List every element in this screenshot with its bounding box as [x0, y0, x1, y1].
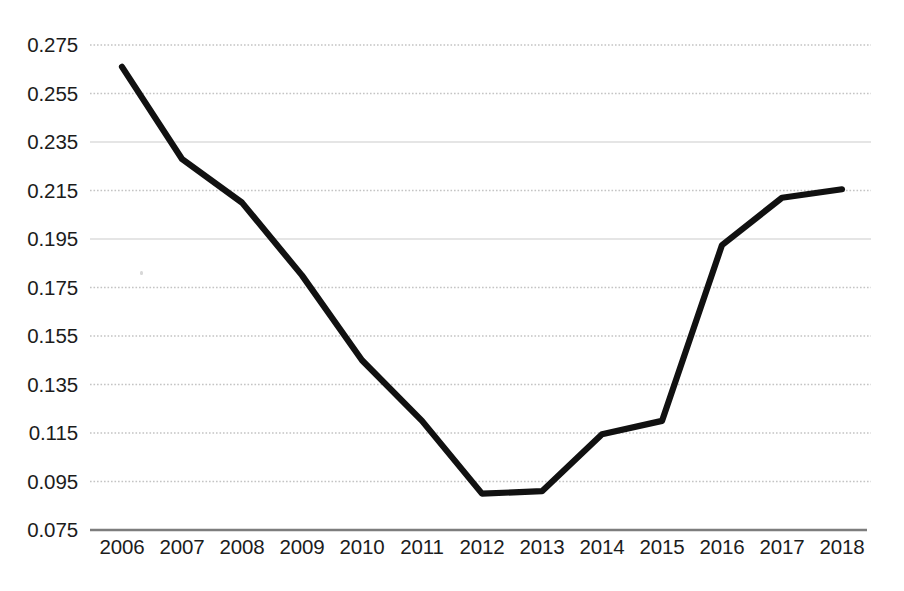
x-axis-tick-labels: 2006200720082009201020112012201320142015… [0, 0, 904, 591]
x-tick-label: 2016 [700, 535, 745, 559]
x-tick-label: 2014 [580, 535, 625, 559]
x-tick-label: 2010 [340, 535, 385, 559]
line-chart: 0.2750.2550.2350.2150.1950.1750.1550.135… [0, 0, 904, 591]
x-tick-label: 2011 [400, 535, 443, 559]
x-tick-label: 2012 [460, 535, 505, 559]
x-tick-label: 2017 [760, 535, 805, 559]
x-tick-label: 2009 [280, 535, 325, 559]
x-tick-label: 2015 [640, 535, 685, 559]
x-tick-label: 2008 [220, 535, 265, 559]
x-tick-label: 2006 [100, 535, 145, 559]
x-tick-label: 2007 [160, 535, 205, 559]
x-tick-label: 2018 [820, 535, 865, 559]
x-tick-label: 2013 [520, 535, 565, 559]
